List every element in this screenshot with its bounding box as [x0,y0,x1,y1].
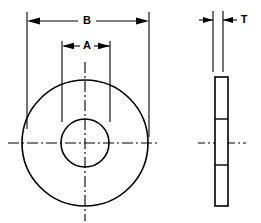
dimension-a-right-arrow-icon [98,43,110,49]
dimension-b: B [27,12,149,137]
side-view [198,77,246,206]
dimension-t-label: T [241,13,248,25]
dimension-t-right-arrow-icon [223,17,233,23]
washer-drawing-svg: B A [0,0,261,223]
front-view [8,62,158,221]
dimension-b-left-arrow-icon [27,18,40,25]
dimension-t-left-arrow-icon [203,17,213,23]
washer-drawing-canvas: B A [0,0,261,223]
side-view-section-rectangle [215,77,228,206]
dimension-t: T [199,11,248,72]
dimension-b-label: B [83,14,91,26]
dimension-a-left-arrow-icon [62,43,74,49]
dimension-a-label: A [83,39,91,51]
dimension-b-right-arrow-icon [136,18,149,25]
